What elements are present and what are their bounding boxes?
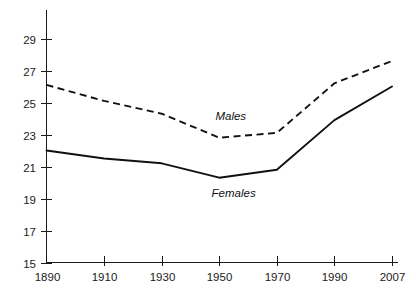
y-tick-label: 15 xyxy=(23,258,36,270)
y-tick-label: 27 xyxy=(23,66,36,78)
y-axis: 1517192123252729 xyxy=(23,10,52,270)
series-label-females: Females xyxy=(212,187,256,199)
y-tick-label: 23 xyxy=(23,130,36,142)
x-tick-label: 1910 xyxy=(92,271,118,283)
x-axis: 1890191019301950197019902007 xyxy=(35,256,406,283)
series-line-males xyxy=(47,61,393,138)
y-tick-label: 25 xyxy=(23,98,36,110)
y-tick-labels: 1517192123252729 xyxy=(23,34,36,270)
x-tick-label: 1990 xyxy=(322,271,348,283)
y-tick-label: 29 xyxy=(23,34,36,46)
y-tick-label: 21 xyxy=(23,162,36,174)
y-tick-label: 19 xyxy=(23,194,36,206)
series-line-females xyxy=(47,87,393,178)
series-annotations: MalesFemales xyxy=(212,110,256,199)
y-tick-label: 17 xyxy=(23,226,36,238)
series-label-males: Males xyxy=(215,110,246,122)
line-chart: 1517192123252729 18901910193019501970199… xyxy=(0,0,416,296)
chart-canvas: 1517192123252729 18901910193019501970199… xyxy=(0,0,416,296)
x-tick-label: 2007 xyxy=(380,271,406,283)
x-tick-label: 1970 xyxy=(265,271,291,283)
x-tick-label: 1930 xyxy=(150,271,176,283)
x-tick-marks xyxy=(105,256,393,266)
x-tick-label: 1950 xyxy=(207,271,233,283)
x-tick-labels: 1890191019301950197019902007 xyxy=(35,271,406,283)
x-tick-label: 1890 xyxy=(35,271,61,283)
